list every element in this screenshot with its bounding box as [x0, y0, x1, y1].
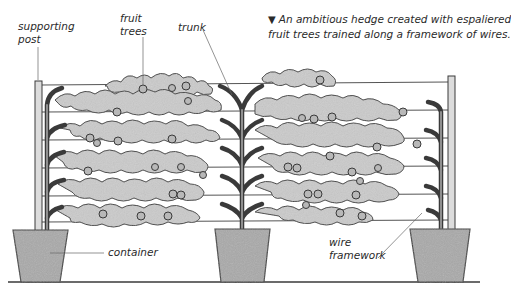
caption-text-line2: fruit trees trained along a framework of… [268, 28, 511, 40]
right-supporting-post [448, 76, 455, 232]
label-supporting-post-line1: supporting [18, 20, 75, 33]
label-wire-framework-line1: wire [329, 236, 386, 249]
figure-caption: ▼An ambitious hedge created with espalie… [268, 12, 511, 42]
label-supporting-post-line2: post [18, 33, 75, 46]
left-container [13, 230, 68, 282]
label-trunk: trunk [178, 21, 206, 34]
label-wire-framework-line2: framework [329, 249, 386, 262]
middle-container [215, 229, 270, 282]
label-fruit-trees-line1: fruit [120, 12, 147, 25]
label-wire-framework: wire framework [329, 236, 386, 262]
triangle-marker-icon: ▼ [268, 14, 276, 25]
caption-text-line1: An ambitious hedge created with espalier… [279, 13, 511, 25]
right-container [410, 229, 470, 282]
foliage-left [55, 73, 221, 227]
caption-line2: fruit trees trained along a framework of… [268, 27, 511, 42]
label-fruit-trees-line2: trees [120, 25, 147, 38]
foliage-right [255, 69, 404, 225]
label-fruit-trees: fruit trees [120, 12, 147, 38]
label-container: container [108, 246, 158, 259]
caption-line1: ▼An ambitious hedge created with espalie… [268, 12, 511, 27]
label-supporting-post: supporting post [18, 20, 75, 46]
left-supporting-post [35, 81, 42, 232]
containers [13, 229, 470, 282]
